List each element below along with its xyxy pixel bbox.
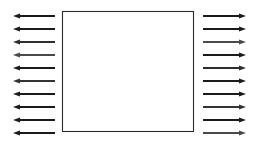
- load-diagram: [0, 0, 259, 143]
- diagram-canvas: [0, 0, 259, 143]
- square-plate: [63, 12, 194, 132]
